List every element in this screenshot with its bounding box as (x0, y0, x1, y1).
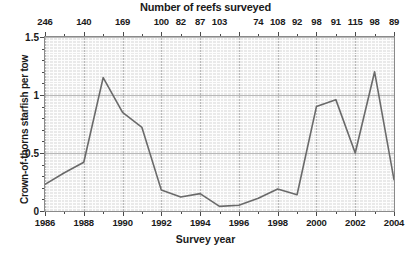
reef-count-label: 98 (311, 16, 321, 27)
reef-count-label: 91 (331, 16, 341, 27)
x-axis-tick-labels: 1986198819901992199419961998200020022004 (0, 217, 411, 231)
reef-count-label: 103 (212, 16, 227, 27)
reef-count-label: 100 (154, 16, 169, 27)
reef-count-label: 108 (270, 16, 285, 27)
top-axis-tick-labels: 2461401691008287103741089298911159889 (0, 16, 411, 29)
reef-count-label: 115 (348, 16, 363, 27)
reef-count-label: 92 (292, 16, 302, 27)
chart-container: Number of reefs surveyed 246140169100828… (0, 0, 411, 255)
reef-count-label: 169 (115, 16, 130, 27)
x-tick-label: 1990 (112, 217, 132, 228)
x-tick-label: 1986 (35, 217, 55, 228)
x-tick-label: 2000 (306, 217, 326, 228)
x-tick-label: 1992 (151, 217, 171, 228)
reef-count-label: 87 (195, 16, 205, 27)
y-axis-title: Crown-of-thorns starfish per tow (19, 42, 30, 218)
x-tick-label: 1988 (74, 217, 94, 228)
x-tick-label: 2002 (345, 217, 365, 228)
plot-area (44, 36, 395, 212)
x-tick-label: 1996 (229, 217, 249, 228)
x-tick-label: 1998 (267, 217, 287, 228)
data-series-line (45, 37, 394, 211)
reef-count-label: 74 (253, 16, 263, 27)
reef-count-label: 98 (370, 16, 380, 27)
x-axis-title: Survey year (0, 233, 411, 245)
reef-count-label: 82 (176, 16, 186, 27)
y-tick-label: 1 (33, 90, 39, 101)
reef-count-label: 140 (76, 16, 91, 27)
reef-count-label: 246 (37, 16, 52, 27)
x-tick-label: 2004 (384, 217, 404, 228)
top-axis-title: Number of reefs surveyed (0, 1, 411, 13)
y-tick-label: 0 (33, 206, 39, 217)
x-tick-label: 1994 (190, 217, 210, 228)
reef-count-label: 89 (389, 16, 399, 27)
